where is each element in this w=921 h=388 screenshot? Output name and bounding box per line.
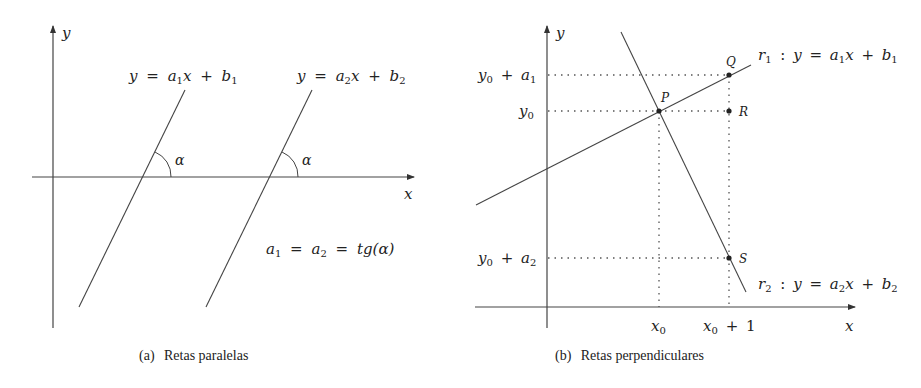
x-axis-label-a: x: [404, 185, 413, 203]
figure-a-parallel-lines: y x α α y = a1x + b1 y = a2x + b2 a1 = a…: [32, 24, 414, 364]
r2-equation: r2 : y = a2x + b2: [758, 275, 898, 296]
slope-relation: a1 = a2 = tg(α): [266, 240, 395, 261]
line-2-a: [206, 90, 312, 307]
caption-a: (a) Retas paralelas: [139, 347, 248, 364]
tick-y0: y0: [518, 102, 534, 121]
angle-arc-1: [155, 152, 171, 177]
angle-label-1: α: [175, 152, 185, 168]
y-axis-label-a: y: [61, 24, 71, 42]
label-R: R: [738, 105, 748, 119]
line-1-equation: y = a1x + b1: [128, 67, 238, 86]
caption-b: (b) Retas perpendiculares: [555, 347, 704, 364]
figure-canvas: y x α α y = a1x + b1 y = a2x + b2 a1 = a…: [0, 0, 921, 388]
line-2-equation: y = a2x + b2: [296, 67, 406, 86]
tick-x0: x0: [651, 317, 666, 336]
tick-y0-plus-a1: y0 + a1: [477, 66, 536, 87]
angle-arc-2: [282, 152, 298, 177]
y-axis-label-b: y: [555, 24, 565, 42]
line-1-a: [79, 90, 185, 307]
line-r2: [621, 32, 746, 292]
tick-y0-plus-a2: y0 + a2: [477, 249, 536, 270]
label-Q: Q: [726, 55, 736, 69]
label-P: P: [660, 91, 670, 105]
line-r1: [476, 65, 751, 205]
point-S: [726, 255, 731, 260]
point-Q: [726, 72, 731, 77]
figure-b-perpendicular-lines: y x P Q R S y0 + a1 y0 y0 +: [475, 24, 898, 364]
tick-x0-plus-1: x0 + 1: [703, 317, 756, 338]
point-P: [656, 108, 661, 113]
angle-label-2: α: [302, 152, 312, 168]
r1-equation: r1 : y = a1x + b1: [758, 46, 898, 67]
dotted-guides: [548, 75, 729, 307]
point-R: [726, 108, 731, 113]
label-S: S: [739, 252, 747, 266]
x-axis-label-b: x: [845, 317, 854, 335]
